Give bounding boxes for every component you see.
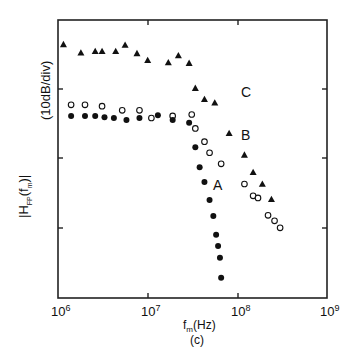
y-ticks [58, 89, 327, 228]
open-circle-marker [137, 108, 143, 114]
triangle-marker [77, 49, 84, 55]
x-tick-label-1e8: 108 [231, 303, 250, 319]
triangle-marker [133, 50, 140, 56]
x-ticks [148, 20, 238, 298]
series-layer [60, 41, 283, 281]
open-circle-marker [277, 225, 283, 231]
filled-circle-marker [201, 179, 207, 185]
open-circle-marker [149, 115, 155, 121]
filled-circle-marker [210, 213, 216, 219]
filled-circle-marker [92, 113, 98, 119]
open-circle-marker [255, 195, 261, 201]
filled-circle-marker [186, 120, 192, 126]
filled-circle-marker [155, 112, 161, 118]
panel-label: (c) [190, 333, 204, 347]
triangle-marker [175, 52, 182, 58]
triangle-marker [112, 48, 119, 54]
triangle-marker [259, 181, 266, 187]
open-circle-marker [242, 181, 248, 187]
series-b [68, 102, 283, 231]
filled-circle-marker [111, 115, 117, 121]
triangle-marker [250, 169, 257, 175]
x-tick-label-1e7: 107 [141, 303, 160, 319]
open-circle-marker [68, 102, 74, 108]
curve-label-b: B [241, 127, 250, 143]
y-axis-label: |HFP(fm)| [16, 175, 33, 218]
open-circle-marker [193, 126, 199, 132]
filled-circle-marker [197, 164, 203, 170]
curve-label-a: A [213, 177, 222, 193]
open-circle-marker [265, 212, 271, 218]
x-tick-label-1e9: 109 [320, 303, 339, 319]
triangle-marker [201, 96, 208, 102]
open-circle-marker [272, 218, 278, 224]
triangle-marker [60, 41, 67, 47]
triangle-marker [211, 99, 218, 105]
plot-frame [58, 20, 327, 298]
triangle-marker [226, 130, 233, 136]
open-circle-marker [82, 102, 88, 108]
filled-circle-marker [82, 113, 88, 119]
triangle-marker [241, 151, 248, 157]
triangle-marker [165, 59, 172, 65]
filled-circle-marker [217, 255, 223, 261]
triangle-marker [122, 42, 129, 48]
x-axis-label: fm(Hz) [183, 318, 216, 334]
open-circle-marker [99, 103, 105, 109]
triangle-marker [99, 48, 106, 54]
open-circle-marker [119, 108, 125, 114]
filled-circle-marker [101, 114, 107, 120]
filled-circle-marker [218, 275, 224, 281]
filled-circle-marker [207, 197, 213, 203]
open-circle-marker [202, 139, 208, 145]
filled-circle-marker [136, 115, 142, 121]
series-c [60, 41, 275, 202]
y-axis-units: (10dB/div) [38, 61, 53, 120]
open-circle-marker [189, 112, 195, 118]
curve-label-c: C [241, 84, 251, 100]
series-a [68, 112, 224, 281]
triangle-marker [92, 48, 99, 54]
filled-circle-marker [213, 232, 219, 238]
open-circle-marker [207, 150, 213, 156]
filled-circle-marker [215, 243, 221, 249]
filled-circle-marker [170, 117, 176, 123]
triangle-marker [268, 196, 275, 202]
triangle-marker [144, 57, 151, 63]
triangle-marker [186, 60, 193, 66]
filled-circle-marker [192, 144, 198, 150]
filled-circle-marker [123, 117, 129, 123]
x-tick-label-1e6: 106 [51, 303, 70, 319]
triangle-marker [192, 85, 199, 91]
filled-circle-marker [68, 113, 74, 119]
open-circle-marker [218, 161, 224, 167]
